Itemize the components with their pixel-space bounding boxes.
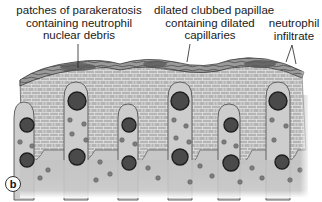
capillary [275, 155, 289, 169]
capillary [122, 156, 136, 170]
dermis-lower [20, 160, 308, 198]
capillary [20, 118, 34, 132]
skin-histology-illustration [0, 0, 322, 202]
panel-label: b [5, 176, 21, 192]
capillary [68, 92, 86, 110]
capillary [223, 155, 239, 171]
leader-line-neutrophil [292, 45, 296, 64]
edge-fade [300, 60, 310, 200]
capillary [269, 92, 287, 110]
parakeratosis-patch [244, 60, 276, 68]
capillary [122, 118, 136, 132]
leader-line-papillae [187, 44, 190, 62]
capillary [172, 149, 188, 165]
capillary [171, 92, 189, 110]
leader-line-neutrophil [286, 45, 292, 62]
capillary [69, 149, 85, 165]
capillary [20, 153, 34, 167]
capillary [224, 118, 238, 132]
parakeratosis-patch [143, 61, 167, 68]
